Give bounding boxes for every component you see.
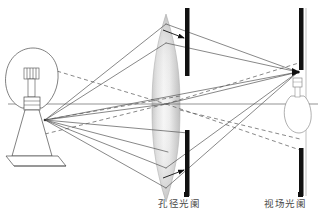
aperture-stop-label: 孔径光阑: [158, 199, 200, 209]
image-bulb-glass: [284, 96, 311, 133]
optical-ray-diagram: [0, 0, 324, 218]
biconvex-lens: [152, 14, 180, 202]
ray-upper-outer-in: [45, 24, 166, 120]
optical-diagram-figure: 孔径光阑 视场光阑: [0, 0, 324, 218]
ray-axis-b: [166, 72, 298, 104]
field-stop-top-bar: [299, 8, 304, 70]
source-point: [44, 119, 47, 122]
field-label-tick: [298, 192, 303, 197]
ray-lower-outer-in: [45, 120, 166, 188]
field-stop-bottom-bar: [299, 148, 304, 196]
aperture-label-tick: [184, 192, 189, 197]
aperture-stop-bottom-bar: [185, 130, 190, 196]
bulb-filament-body: [24, 68, 39, 79]
aperture-stop-top-bar: [185, 8, 190, 76]
image-point-marker: [292, 68, 300, 76]
image-bulb-stem: [295, 86, 300, 97]
image-bulb-base: [293, 78, 302, 87]
aperture-stop[interactable]: [185, 8, 190, 196]
inverted-bulb-image: [284, 68, 311, 133]
ray-lower-inner-in: [45, 120, 166, 168]
ray-lowfan-b: [45, 120, 168, 152]
lamp-holder-cone: [12, 110, 52, 156]
ray-axis-a: [45, 104, 166, 120]
light-bulb-source: [6, 48, 66, 166]
bulb-screw-base: [24, 97, 40, 110]
field-stop-label: 视场光阑: [264, 199, 306, 209]
lamp-base-plate: [6, 156, 66, 166]
bulb-stem: [28, 79, 35, 97]
